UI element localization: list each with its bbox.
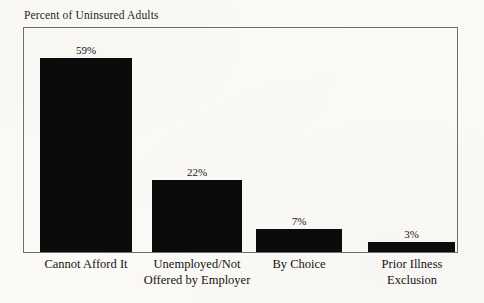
category-label: By Choice (256, 256, 342, 272)
bar-group: 22% (152, 28, 242, 252)
bar-rect (152, 180, 242, 252)
category-label: Prior Illness Exclusion (366, 256, 458, 288)
bar-value-label: 22% (152, 166, 242, 178)
bar-group: 3% (368, 28, 455, 252)
bar-value-label: 7% (256, 215, 342, 227)
bar-group: 59% (40, 28, 132, 252)
bar-rect (40, 58, 132, 252)
category-label-line: Offered by Employer (132, 272, 262, 288)
category-label: Unemployed/Not Offered by Employer (132, 256, 262, 288)
category-label-line: Prior Illness (366, 256, 458, 272)
chart-title: Percent of Uninsured Adults (24, 8, 159, 22)
bar-value-label: 3% (368, 228, 455, 240)
bar-rect (368, 242, 455, 252)
category-labels-layer: Cannot Afford It Unemployed/Not Offered … (24, 256, 457, 301)
category-label-line: Exclusion (366, 272, 458, 288)
bar-value-label: 59% (40, 44, 132, 56)
category-label-line: Unemployed/Not (132, 256, 262, 272)
bar-rect (256, 229, 342, 252)
bar-group: 7% (256, 28, 342, 252)
bar-chart-figure: Percent of Uninsured Adults 59% 22% 7% 3… (0, 0, 484, 303)
bars-layer: 59% 22% 7% 3% (24, 28, 457, 252)
category-label-line: By Choice (256, 256, 342, 272)
